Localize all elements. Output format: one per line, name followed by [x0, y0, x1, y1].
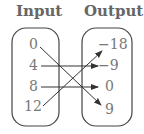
arrow-0-to-9 — [40, 47, 101, 105]
output-value: −18 — [98, 36, 128, 52]
input-value: 12 — [24, 98, 42, 114]
input-value: 4 — [29, 57, 38, 73]
mapping-diagram: Input Output 0 4 8 12 −18 −9 0 9 — [0, 0, 144, 134]
output-value: −9 — [98, 57, 119, 73]
output-value: 0 — [105, 78, 114, 94]
output-value: 9 — [105, 101, 114, 117]
input-value: 0 — [29, 36, 38, 52]
mapping-graphics — [0, 0, 144, 134]
input-header: Input — [16, 2, 62, 20]
output-header: Output — [84, 2, 143, 20]
input-value: 8 — [29, 78, 38, 94]
